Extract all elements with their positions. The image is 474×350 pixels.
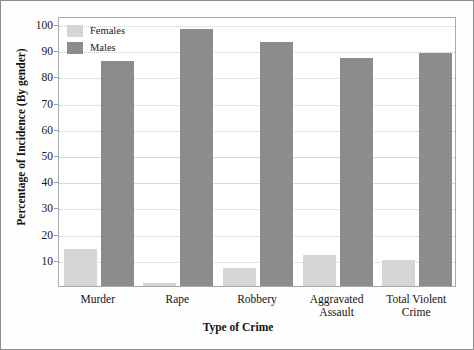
y-axis-title: Percentage of Incidence (By gender) <box>15 22 27 252</box>
bar-females-0 <box>64 249 97 286</box>
bar-males-3 <box>340 58 373 286</box>
chart-figure: Percentage of Incidence (By gender) 1020… <box>0 0 474 350</box>
bar-females-3 <box>303 255 336 286</box>
legend-label-females: Females <box>90 25 125 36</box>
bar-males-4 <box>419 53 452 286</box>
legend-swatch-females <box>67 25 83 37</box>
x-axis-title: Type of Crime <box>1 321 474 333</box>
y-tick-label-10: 10 <box>21 255 53 267</box>
legend-item-males: Males <box>67 39 125 56</box>
legend-item-females: Females <box>67 22 125 39</box>
bar-males-2 <box>260 42 293 286</box>
bar-females-2 <box>223 268 256 286</box>
legend-label-males: Males <box>90 42 116 53</box>
bar-females-4 <box>382 260 415 286</box>
plot-area: Females Males <box>58 17 456 287</box>
bar-males-1 <box>180 29 213 286</box>
x-tick-label-line: Crime <box>356 306 474 319</box>
x-tick-label-line: Total Violent <box>356 293 474 306</box>
chart-legend: Females Males <box>67 22 125 56</box>
bar-females-1 <box>143 283 176 286</box>
legend-swatch-males <box>67 42 83 54</box>
bar-males-0 <box>101 61 134 286</box>
x-tick-label-4: Total ViolentCrime <box>356 293 474 319</box>
